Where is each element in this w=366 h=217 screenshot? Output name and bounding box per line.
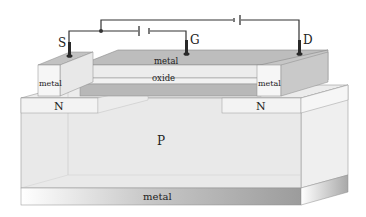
source-metal-label: metal — [39, 79, 62, 88]
source-terminal-label: S — [58, 36, 66, 50]
drain-battery-icon — [234, 15, 240, 25]
gate-terminal-label: G — [190, 33, 200, 47]
drain-terminal-label: D — [303, 33, 313, 47]
gate-oxide-label: oxide — [152, 73, 175, 83]
drain-n-label: N — [256, 100, 266, 113]
bottom-metal-label: metal — [143, 191, 172, 202]
wire-junction-dot — [99, 29, 103, 33]
drain-metal-label: metal — [258, 79, 281, 88]
mosfet-diagram: S G D metal oxide metal metal N N P meta… — [0, 0, 366, 217]
source-n-label: N — [54, 100, 64, 113]
gate-battery-icon — [139, 26, 149, 36]
substrate-p-label: P — [157, 134, 165, 148]
gate-metal-label: metal — [154, 56, 179, 66]
